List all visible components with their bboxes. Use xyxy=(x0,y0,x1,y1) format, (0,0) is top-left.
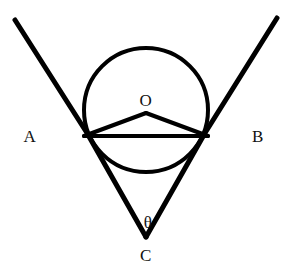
geometry-canvas xyxy=(0,0,295,278)
label-point-b: B xyxy=(252,128,264,145)
radius-left-segment xyxy=(84,113,146,136)
inscribed-circle xyxy=(84,48,208,172)
geometry-figure: A B O C θ xyxy=(0,0,295,278)
label-circle-center-o: O xyxy=(140,92,153,109)
label-angle-theta: θ xyxy=(144,214,153,231)
label-point-a: A xyxy=(24,128,37,145)
label-apex-c: C xyxy=(140,247,152,264)
radius-right-segment xyxy=(146,113,208,136)
